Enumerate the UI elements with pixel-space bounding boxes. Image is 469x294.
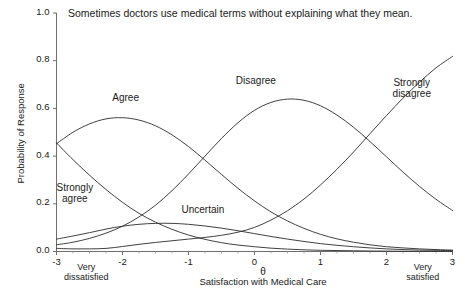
curve-label: Uncertain: [182, 204, 225, 215]
x-anchor-high-label: Verysatisfied: [388, 262, 458, 282]
y-tick-label: 0.8: [26, 54, 50, 65]
curve-label: Stronglyagree: [56, 182, 93, 204]
y-tick-label: 1.0: [26, 7, 50, 18]
response-curve: [57, 118, 453, 250]
chart-figure: Sometimes doctors use medical terms with…: [0, 0, 469, 294]
x-tick-label: -1: [177, 257, 201, 268]
response-curve: [57, 99, 453, 245]
response-curve: [57, 143, 453, 251]
y-tick-label: 0.0: [26, 245, 50, 256]
y-tick-label: 0.4: [26, 150, 50, 161]
y-tick-label: 0.2: [26, 197, 50, 208]
chart-title: Sometimes doctors use medical terms with…: [68, 8, 412, 20]
x-tick-label: 1: [309, 257, 333, 268]
x-anchor-low-label: Verydissatisfied: [51, 262, 121, 282]
curve-label: Stronglydisagree: [393, 77, 431, 99]
y-axis-label: Probability of Response: [16, 63, 27, 203]
y-tick-label: 0.6: [26, 102, 50, 113]
chart-canvas: [0, 0, 469, 294]
y-axis-ticks: [53, 13, 57, 252]
x-axis-ticks: [57, 252, 453, 256]
curve-label: Disagree: [236, 75, 276, 86]
x-axis-label: Satisfaction with Medical Care: [183, 277, 343, 288]
curve-label: Agree: [112, 92, 139, 103]
axes-group: [53, 13, 453, 255]
